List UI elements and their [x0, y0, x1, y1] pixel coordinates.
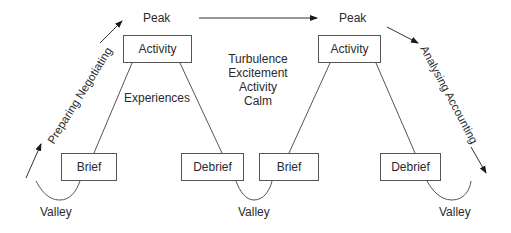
valley-curve-right: [427, 181, 471, 200]
cycle2-debrief-box: Debrief: [380, 153, 441, 181]
cycle2-brief-box: Brief: [259, 153, 319, 181]
experiences-label: Experiences: [124, 92, 190, 104]
cycle2-activity-label: Activity: [330, 42, 368, 56]
peak-label-right: Peak: [339, 12, 366, 24]
state-excitement: Excitement: [218, 66, 298, 80]
cycle2-activity-box: Activity: [318, 35, 381, 63]
valley-label-left: Valley: [40, 206, 72, 218]
falling-arrow-upper: [387, 27, 418, 43]
cycle2-right-diagonal: [376, 63, 415, 153]
cycle1-debrief-box: Debrief: [181, 153, 244, 181]
cycle1-right-diagonal: [180, 63, 222, 153]
valley-curve-left: [36, 181, 80, 200]
rising-arrow-lower: [26, 144, 41, 178]
cycle2-brief-label: Brief: [277, 160, 302, 174]
cycle1-activity-box: Activity: [123, 35, 192, 63]
cycle1-activity-label: Activity: [138, 42, 176, 56]
experience-cycle-diagram: Peak Peak Activity Brief Debrief Experie…: [0, 0, 511, 233]
peak-label-left: Peak: [143, 12, 170, 24]
valley-label-middle: Valley: [238, 206, 270, 218]
falling-arrow-lower: [471, 147, 486, 173]
state-calm: Calm: [218, 94, 298, 108]
state-activity: Activity: [218, 80, 298, 94]
valley-curve-middle: [236, 181, 272, 200]
cycle1-debrief-label: Debrief: [193, 160, 232, 174]
cycle1-brief-box: Brief: [61, 153, 117, 181]
states-list: Turbulence Excitement Activity Calm: [218, 52, 298, 108]
connector-lines: [0, 0, 511, 233]
valley-label-right: Valley: [439, 206, 471, 218]
rising-arrow-upper: [100, 21, 122, 43]
state-turbulence: Turbulence: [218, 52, 298, 66]
cycle1-left-diagonal: [94, 63, 132, 153]
cycle1-brief-label: Brief: [77, 160, 102, 174]
cycle2-debrief-label: Debrief: [391, 160, 430, 174]
